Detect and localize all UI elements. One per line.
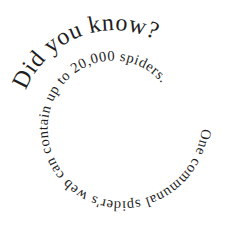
spiral-heading-text: Did you know? [7,9,163,93]
spiral-body-text: One communal spider's web can contain up… [34,47,214,214]
spiral-body: One communal spider's web can contain up… [34,47,214,214]
spiral-heading: Did you know? [7,9,163,93]
spiral-text-graphic: Did you know? One communal spider's web … [0,0,236,231]
